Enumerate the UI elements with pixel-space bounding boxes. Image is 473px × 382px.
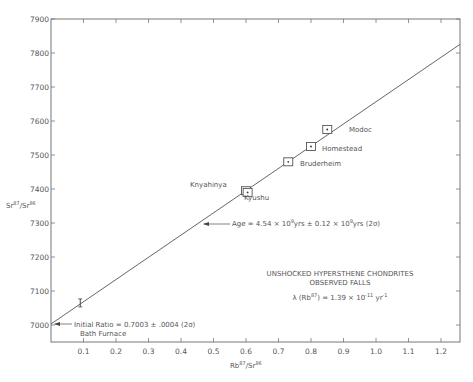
x-tick-label: 1.1: [403, 347, 415, 356]
label-homestead: Homestead: [322, 145, 362, 153]
x-tick-label: 0.7: [273, 347, 285, 356]
x-tick-label: 0.6: [240, 347, 252, 356]
x-axis-label: Rb87/Sr86: [230, 360, 262, 370]
x-tick-label: 0.8: [305, 347, 317, 356]
data-point: [310, 146, 312, 148]
x-tick-label: 0.9: [338, 347, 350, 356]
label-modoc: Modoc: [349, 126, 372, 134]
isochron-chart: 7000710072007300740075007600770078007900…: [0, 0, 473, 382]
label-knyahinya: Knyahinya: [190, 181, 227, 189]
y-tick-label: 7100: [30, 287, 49, 296]
y-tick-label: 7300: [30, 219, 49, 228]
label-bath-furnace: Bath Furnace: [80, 330, 126, 338]
chart-subtitle: OBSERVED FALLS: [310, 279, 371, 287]
x-tick-label: 0.4: [175, 347, 187, 356]
y-tick-label: 7800: [30, 49, 49, 58]
y-tick-label: 7900: [30, 15, 49, 24]
isochron-line: [51, 44, 460, 324]
label-kyushu: Kyushu: [244, 194, 269, 202]
y-tick-label: 7400: [30, 185, 49, 194]
initial-ratio-annotation: Initial Ratio = 0.7003 ± .0004 (2σ): [74, 321, 196, 329]
data-point: [326, 129, 328, 131]
x-tick-label: 0.2: [110, 347, 122, 356]
y-axis-label: Sr87/Sr86: [6, 200, 36, 210]
y-tick-label: 7200: [30, 253, 49, 262]
age-annotation: Age = 4.54 × 109yrs ± 0.12 × 109yrs (2σ): [232, 218, 380, 228]
x-tick-label: 1.0: [370, 347, 382, 356]
chart-title: UNSHOCKED HYPERSTHENE CHONDRITES: [267, 270, 414, 278]
x-tick-label: 1.2: [435, 347, 447, 356]
y-tick-label: 7600: [30, 117, 49, 126]
age-arrowhead: [203, 222, 209, 226]
y-tick-label: 7000: [30, 321, 49, 330]
data-point: [287, 161, 289, 163]
x-tick-label: 0.5: [208, 347, 220, 356]
y-tick-label: 7500: [30, 151, 49, 160]
y-tick-label: 7700: [30, 83, 49, 92]
x-tick-label: 0.3: [143, 347, 155, 356]
decay-constant: λ (Rb87) = 1.39 × 10-11 yr-1: [292, 292, 387, 302]
y-axis: 7000710072007300740075007600770078007900: [30, 15, 460, 330]
plot-frame: [51, 19, 460, 342]
x-axis: 0.10.20.30.40.50.60.70.80.91.01.11.2: [78, 19, 448, 356]
x-tick-label: 0.1: [78, 347, 90, 356]
label-bruderheim: Bruderheim: [300, 160, 341, 168]
